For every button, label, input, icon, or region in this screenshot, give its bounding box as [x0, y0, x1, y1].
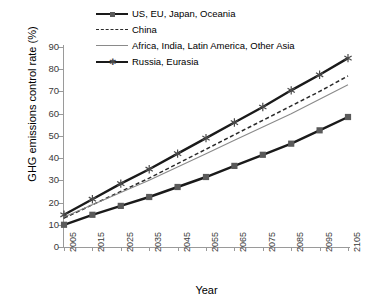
x-axis-tick-label: 2035 [153, 232, 163, 252]
series-line [64, 58, 348, 215]
series-0 [61, 114, 351, 228]
legend-item-africa-india-latin-america-other-asia: Africa, India, Latin America, Other Asia [95, 38, 370, 54]
x-axis-tick-label: 2045 [182, 232, 192, 252]
x-axis-tick [348, 247, 349, 251]
x-axis-tick [121, 247, 122, 251]
y-axis-tick-label: 60 [19, 108, 59, 119]
dashed-line-icon [95, 23, 129, 37]
data-point-marker [259, 103, 266, 111]
series-3 [60, 54, 351, 219]
data-point-marker [260, 152, 266, 158]
legend-label: US, EU, Japan, Oceania [132, 7, 236, 21]
data-point-marker [202, 134, 209, 142]
y-axis-tick-label: 30 [19, 174, 59, 185]
x-axis-tick-label: 2015 [96, 232, 106, 252]
data-point-marker [203, 174, 209, 180]
y-axis-tick-label: 0 [19, 241, 59, 252]
x-axis-tick-label: 2095 [324, 232, 334, 252]
y-axis-line [63, 45, 64, 248]
legend-label: Russia, Eurasia [132, 55, 199, 69]
series-line [64, 117, 348, 225]
x-axis-tick-label: 2005 [68, 232, 78, 252]
y-axis-tick-label: 40 [19, 152, 59, 163]
series-1 [64, 76, 348, 218]
x-axis-title: Year [64, 284, 349, 296]
x-axis-tick-label: 2065 [238, 232, 248, 252]
x-axis-tick [263, 247, 264, 251]
legend-item-russia-eurasia: ✱ Russia, Eurasia [95, 54, 370, 70]
y-axis-title: GHG emissions control rate (%) [26, 4, 38, 204]
chart-legend: US, EU, Japan, Oceania China Africa, Ind… [95, 6, 370, 70]
legend-label: Africa, India, Latin America, Other Asia [132, 39, 295, 53]
legend-label: China [132, 23, 157, 37]
x-axis-tick-label: 2055 [210, 232, 220, 252]
series-2 [64, 85, 348, 217]
x-axis-tick [234, 247, 235, 251]
data-point-marker [118, 203, 124, 209]
data-point-marker [146, 165, 153, 173]
x-axis-tick [64, 247, 65, 251]
y-axis-tick-label: 50 [19, 130, 59, 141]
x-axis-tick [206, 247, 207, 251]
data-point-marker [89, 195, 96, 203]
x-axis-tick-label: 2085 [295, 232, 305, 252]
data-point-marker [174, 149, 181, 157]
ghg-emissions-control-rate-chart: US, EU, Japan, Oceania China Africa, Ind… [0, 0, 375, 305]
data-point-marker [175, 184, 181, 190]
legend-item-china: China [95, 22, 370, 38]
y-axis-tick-label: 70 [19, 85, 59, 96]
data-point-marker [60, 211, 67, 219]
legend-item-us-eu-japan-oceania: US, EU, Japan, Oceania [95, 6, 370, 22]
x-axis-tick [320, 247, 321, 251]
data-point-marker [316, 71, 323, 79]
thin-line-icon [95, 39, 129, 53]
data-point-marker [89, 212, 95, 218]
y-axis-tick-label: 20 [19, 197, 59, 208]
x-axis-tick [291, 247, 292, 251]
x-axis-tick-label: 2075 [267, 232, 277, 252]
y-axis-tick-label: 80 [19, 63, 59, 74]
data-point-marker [146, 194, 152, 200]
x-axis-tick-label: 2105 [352, 232, 362, 252]
data-point-marker [317, 127, 323, 133]
y-axis-tick-label: 10 [19, 219, 59, 230]
square-marker-icon [95, 7, 129, 21]
data-point-marker [231, 118, 238, 126]
x-axis-tick [92, 247, 93, 251]
y-axis-tick-label: 90 [19, 41, 59, 52]
series-line [64, 76, 348, 218]
data-point-marker [345, 114, 351, 120]
data-point-marker [288, 86, 295, 94]
star-marker-icon: ✱ [95, 55, 129, 69]
x-axis-tick [178, 247, 179, 251]
data-point-marker [117, 179, 124, 187]
series-line [64, 85, 348, 217]
data-point-marker [288, 141, 294, 147]
x-axis-tick [149, 247, 150, 251]
x-axis-tick-label: 2025 [125, 232, 135, 252]
data-point-marker [231, 163, 237, 169]
